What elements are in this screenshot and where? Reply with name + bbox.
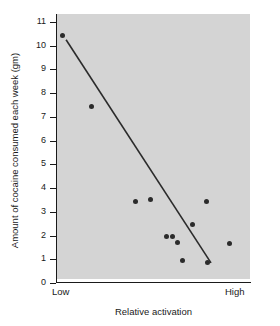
y-axis-tick [50, 141, 56, 142]
y-axis-tick [50, 22, 56, 23]
y-axis-tick-label: 1 [41, 254, 46, 263]
x-axis-title: Relative activation [57, 306, 250, 318]
y-axis-title: Amount of cocaine consumed each week (gm… [8, 18, 22, 283]
trend-line [57, 14, 250, 279]
y-axis-tick-label: 5 [41, 159, 46, 168]
y-axis-tick-label: 11 [37, 17, 46, 26]
y-axis-tick [50, 236, 56, 237]
scatter-plot-figure: 01234567891011 Amount of cocaine consume… [0, 0, 280, 326]
y-axis-tick [50, 69, 56, 70]
y-axis-tick-label: 8 [41, 88, 46, 97]
y-axis-tick-label: 3 [41, 207, 46, 216]
y-axis-tick-label: 7 [41, 112, 46, 121]
y-axis-tick-label: 4 [41, 183, 46, 192]
y-axis-tick [50, 93, 56, 94]
x-tick-label-low: Low [52, 286, 69, 298]
x-tick-label-high: High [225, 286, 245, 298]
y-axis-tick [50, 117, 56, 118]
y-axis-tick [50, 164, 56, 165]
x-axis-line [56, 282, 251, 283]
y-axis-tick [50, 46, 56, 47]
y-axis-tick-label: 9 [41, 64, 46, 73]
y-axis-tick-label: 6 [41, 136, 46, 145]
y-axis-tick-label: 0 [41, 278, 46, 287]
y-axis-tick-label: 10 [36, 41, 46, 50]
y-axis-tick [50, 212, 56, 213]
y-axis-tick [50, 283, 56, 284]
y-axis-tick [50, 259, 56, 260]
y-axis-title-host: Amount of cocaine consumed each week (gm… [8, 283, 22, 326]
y-axis-tick-label: 2 [41, 231, 46, 240]
y-axis-tick [50, 188, 56, 189]
